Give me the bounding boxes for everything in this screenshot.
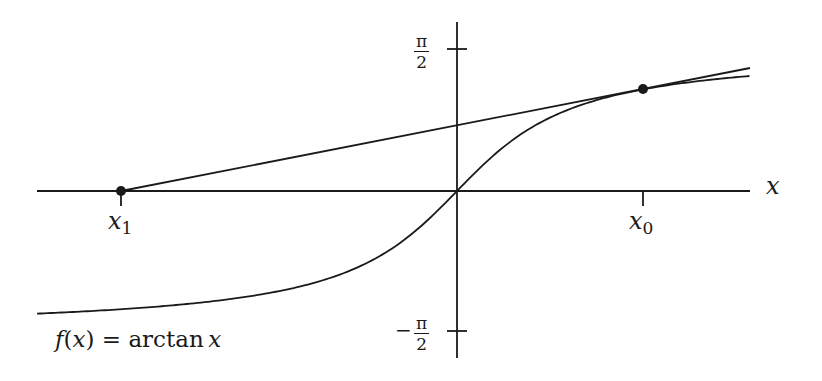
function-label: f(x) = arctan x	[55, 326, 221, 352]
formula-fn: arctan	[128, 326, 203, 352]
neg-pi-numerator: π	[414, 314, 429, 334]
x1-label: x1	[108, 207, 132, 238]
formula-x: x	[73, 326, 86, 352]
y-tick-label-pi-over-2: π 2	[414, 32, 429, 71]
pi-denominator: 2	[416, 52, 427, 71]
neg-sign: −	[395, 318, 412, 342]
formula-arg: x	[208, 326, 221, 352]
x0-label-main: x	[629, 207, 643, 235]
formula-eq: =	[94, 326, 128, 352]
y-tick-label-neg-pi-over-2: π 2	[414, 314, 429, 353]
x1-point	[116, 186, 126, 196]
x0-point	[638, 84, 648, 94]
neg-pi-denominator: 2	[416, 334, 427, 353]
tangent-line	[121, 68, 750, 191]
x0-label-sub: 0	[643, 218, 654, 238]
x1-label-main: x	[108, 207, 122, 235]
pi-numerator: π	[414, 32, 429, 52]
x-axis-label: x	[766, 172, 780, 200]
x1-label-sub: 1	[122, 218, 133, 238]
x0-label: x0	[629, 207, 653, 238]
formula-open: (	[64, 326, 73, 352]
formula-f: f	[55, 326, 64, 352]
